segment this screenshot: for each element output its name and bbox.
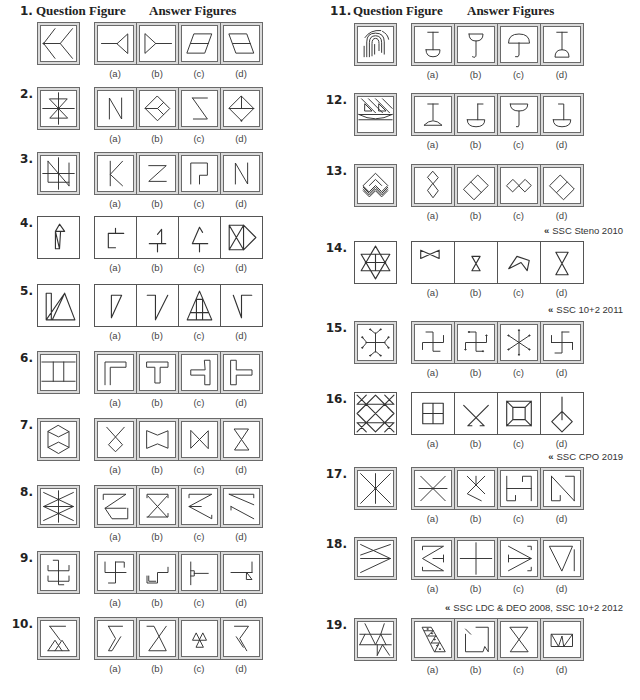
answer-option-a: [94, 485, 137, 528]
double-chevron-left-icon: «: [548, 304, 553, 315]
figure-lines: [421, 250, 439, 258]
figure: [544, 622, 580, 657]
option-label-a: (a): [94, 330, 136, 342]
figure-frame: [541, 393, 583, 434]
figure-lines: [149, 166, 167, 182]
figure-frame: [412, 242, 454, 283]
figure: [415, 27, 451, 62]
figure: [458, 325, 494, 360]
option-label-b: (b): [454, 513, 497, 525]
figure: [182, 555, 217, 590]
option-label-a: (a): [411, 69, 454, 81]
answer-option-d: [220, 216, 263, 259]
figure-lines: [109, 626, 123, 651]
option-label-a: (a): [94, 198, 136, 210]
question-figure: [37, 551, 80, 594]
option-label-c: (c): [497, 69, 540, 81]
answer-option-a: [94, 152, 137, 195]
figure-lines: [187, 291, 212, 320]
answer-option-c: [497, 93, 541, 136]
answer-figures: [411, 618, 584, 661]
figure: [137, 217, 178, 258]
option-labels: (a)(b)(c)(d): [94, 397, 262, 409]
figure-lines: [46, 293, 75, 320]
figure-lines: [233, 295, 251, 318]
figure: [98, 489, 133, 524]
option-label-b: (b): [454, 69, 497, 81]
answer-option-b: [454, 537, 498, 580]
figure-frame: [414, 540, 452, 577]
question-number: 5.: [0, 284, 33, 298]
figure-lines: [147, 626, 166, 651]
figure: [544, 27, 580, 62]
figure-lines: [357, 395, 394, 432]
figure-frame: [457, 167, 495, 204]
column-header-right: 11. Question Figure Answer Figures: [320, 3, 640, 19]
answer-figures: [411, 537, 584, 580]
figure-lines: [193, 633, 207, 647]
figure: [501, 471, 537, 506]
figure: [458, 27, 494, 62]
option-label-c: (c): [497, 513, 540, 525]
figure-lines: [509, 546, 532, 571]
answer-option-a: [411, 618, 455, 661]
question-figure: [37, 485, 80, 528]
question-2: 2. (a)(b)(c)(d): [0, 87, 320, 147]
option-label-b: (b): [136, 68, 178, 80]
option-label-c: (c): [178, 531, 220, 543]
figure-lines: [508, 330, 530, 356]
option-label-b: (b): [454, 438, 497, 450]
figure-lines: [147, 431, 168, 449]
figure-frame: [223, 25, 260, 62]
option-label-d: (d): [540, 139, 583, 151]
answer-option-c: [497, 241, 541, 284]
figure-frame: [543, 621, 581, 658]
option-label-d: (d): [220, 464, 262, 476]
figure-frame: [500, 621, 538, 658]
option-label-d: (d): [540, 287, 583, 299]
figure-frame: [179, 217, 220, 258]
figure-lines: [364, 30, 389, 56]
figure-frame: [97, 620, 134, 657]
answer-figures: [411, 93, 584, 136]
option-label-d: (d): [540, 438, 583, 450]
figure-lines: [229, 34, 254, 53]
figure-frame: [500, 26, 538, 63]
option-label-d: (d): [540, 367, 583, 379]
question-figure: [37, 418, 80, 461]
option-label-a: (a): [411, 438, 454, 450]
answer-option-c: [178, 617, 221, 660]
question-10: 10. (a)(b)(c)(d): [0, 617, 320, 677]
figure-lines: [145, 96, 170, 121]
figure-frame: [97, 421, 134, 458]
figure: [182, 355, 217, 390]
figure-lines: [48, 426, 69, 454]
option-label-a: (a): [94, 597, 136, 609]
question-figure: [37, 284, 80, 327]
answer-option-a: [411, 23, 455, 66]
question-figure: [354, 537, 397, 580]
figure: [140, 26, 175, 61]
question-number: 3.: [0, 152, 33, 166]
figure-frame: [40, 421, 77, 458]
figure: [544, 541, 580, 576]
figure: [355, 242, 396, 283]
figure-frame: [357, 621, 394, 658]
question-figure: [354, 23, 397, 66]
option-label-b: (b): [136, 663, 178, 675]
answer-figures: [411, 164, 584, 207]
question-figure: [354, 241, 397, 284]
figure: [182, 489, 217, 524]
figure-lines: [229, 225, 256, 250]
figure-lines: [55, 224, 64, 249]
figure: [41, 26, 76, 61]
option-label-d: (d): [220, 133, 262, 145]
figure-lines: [552, 476, 575, 501]
option-label-d: (d): [220, 262, 262, 274]
figure-frame: [139, 421, 176, 458]
figure: [179, 285, 220, 326]
answer-option-a: [411, 392, 455, 435]
option-labels: (a)(b)(c)(d): [94, 68, 262, 80]
figure-lines: [552, 634, 573, 646]
answer-option-c: [178, 351, 221, 394]
